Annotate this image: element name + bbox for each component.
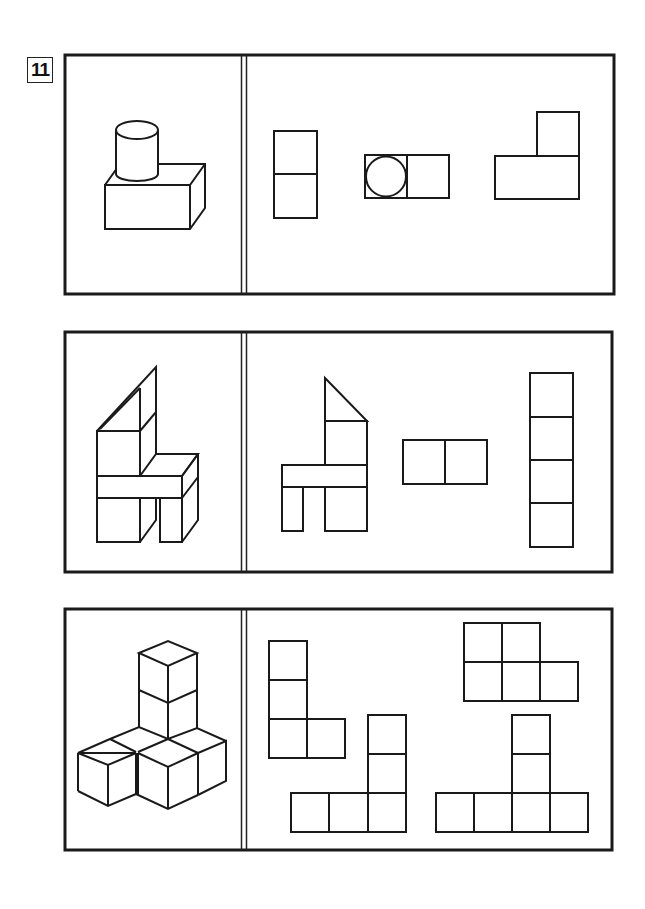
row-3-views [269,623,588,832]
cylinder-on-box-solid [105,121,205,229]
row-2-views [282,373,573,547]
row-1-views [274,112,579,218]
chair-solid [97,367,198,542]
cube-assembly-solid [78,641,226,809]
